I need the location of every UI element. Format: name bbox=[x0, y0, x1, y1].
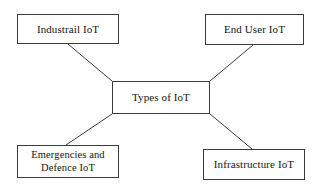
connector-center-to-emergencies bbox=[66, 114, 112, 145]
node-types-of-iot-label: Types of IoT bbox=[132, 91, 190, 104]
node-industrial-iot-label: Industrail IoT bbox=[37, 23, 99, 36]
connector-center-to-industrial bbox=[68, 44, 112, 81]
node-types-of-iot: Types of IoT bbox=[112, 81, 210, 114]
node-industrial-iot: Industrail IoT bbox=[17, 14, 119, 44]
node-infrastructure-iot: Infrastructure IoT bbox=[203, 149, 305, 180]
iot-types-diagram: Industrail IoT End User IoT Types of IoT… bbox=[0, 0, 321, 189]
connector-center-to-enduser bbox=[210, 45, 253, 81]
node-end-user-iot-label: End User IoT bbox=[224, 23, 285, 36]
connector-center-to-infrastructure bbox=[210, 114, 252, 149]
node-end-user-iot: End User IoT bbox=[205, 14, 304, 45]
node-emergencies-and-defence-iot-label: Emergencies and Defence IoT bbox=[31, 149, 104, 174]
node-emergencies-and-defence-iot: Emergencies and Defence IoT bbox=[17, 145, 119, 178]
node-infrastructure-iot-label: Infrastructure IoT bbox=[214, 158, 294, 171]
